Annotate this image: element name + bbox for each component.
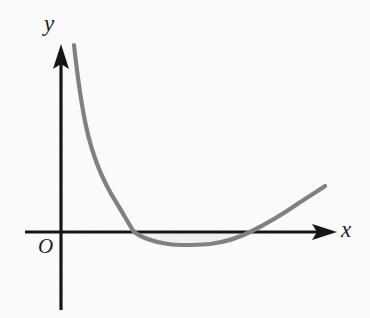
- origin-label: O: [38, 236, 53, 257]
- x-axis-label: x: [341, 218, 351, 241]
- math-function-graph-figure: y x O: [0, 0, 370, 318]
- y-axis-label: y: [44, 12, 54, 35]
- function-curve: [74, 45, 325, 245]
- graph-canvas: [0, 0, 370, 318]
